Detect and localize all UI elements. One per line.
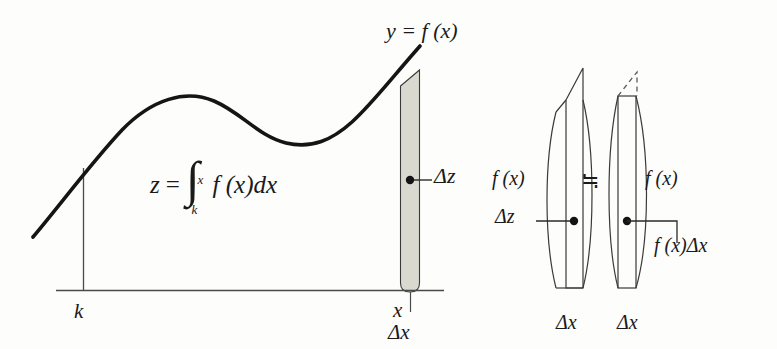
left-prism-dot (570, 217, 578, 225)
math-figure: y = f (x) z=∫xkf (x)dx Δz k x Δx f (x) Δ… (0, 0, 777, 349)
integral-formula: z=∫xkf (x)dx (150, 172, 277, 197)
dashed-excess-triangle (618, 72, 637, 96)
x-axis-tick-label-k: k (74, 301, 83, 322)
delta-x-label: Δx (388, 322, 410, 343)
left-prism-back-bulge (583, 100, 592, 288)
right-prism-front-bulge (609, 96, 618, 288)
right-prism-height-label: f (x) (645, 168, 678, 188)
left-prism-area-label: Δz (495, 206, 515, 226)
delta-z-label: Δz (434, 165, 455, 187)
left-prism-front-bulge (547, 112, 556, 288)
right-prism-area-label: f (x)Δx (654, 235, 707, 255)
formula-equals: = (160, 171, 186, 198)
left-prism-height-label: f (x) (492, 168, 525, 188)
left-prism-width-label: Δx (556, 312, 577, 332)
function-curve (33, 46, 420, 237)
integral-upper-limit: x (198, 173, 204, 186)
delta-z-dot (406, 176, 414, 184)
integral-lower-limit: k (192, 203, 198, 216)
x-axis-tick-label-x: x (393, 300, 402, 321)
formula-lhs: z (150, 171, 160, 198)
approximately-equal-symbol: ≒ (581, 170, 599, 192)
curve-label: y = f (x) (386, 20, 458, 42)
right-prism-back-bulge (636, 96, 647, 288)
right-prism-slab (618, 96, 636, 288)
formula-integrand: f (x)dx (200, 171, 278, 198)
right-prism-width-label: Δx (617, 312, 638, 332)
left-prism-top-edge (556, 100, 566, 112)
